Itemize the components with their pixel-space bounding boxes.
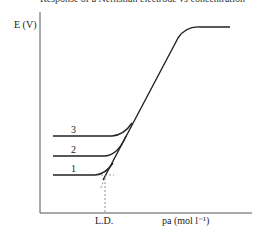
curve-1-label: 1 bbox=[71, 163, 76, 174]
x-axis-label: pa (mol l⁻¹) bbox=[162, 215, 209, 227]
electrode-response-diagram: E (V) pa (mol l⁻¹) L.D. 3 2 1 bbox=[0, 0, 254, 234]
curve-2 bbox=[53, 136, 126, 156]
y-axis-label: E (V) bbox=[14, 19, 37, 31]
curve-2-label: 2 bbox=[71, 144, 76, 155]
ld-label: L.D. bbox=[95, 215, 113, 226]
curve-3-label: 3 bbox=[71, 124, 76, 135]
main-response-curve bbox=[103, 27, 230, 180]
curve-3 bbox=[53, 123, 132, 136]
curve-1 bbox=[53, 163, 113, 175]
